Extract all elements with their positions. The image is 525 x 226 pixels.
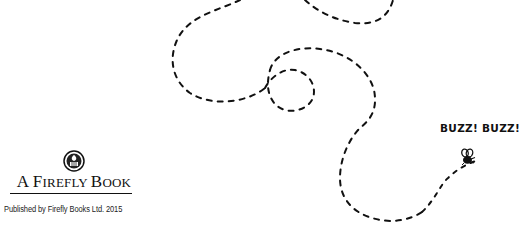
logo-title: A FIREFLY BOOK: [8, 173, 140, 192]
publisher-logo: A FIREFLY BOOK: [8, 150, 140, 194]
buzz-caption: BUZZ! BUZZ!: [440, 122, 520, 134]
crest-emblem-icon: [63, 150, 85, 172]
logo-underline: [10, 193, 132, 194]
bee-icon: [458, 148, 478, 166]
publisher-line: Published by Firefly Books Ltd. 2015: [4, 204, 122, 214]
